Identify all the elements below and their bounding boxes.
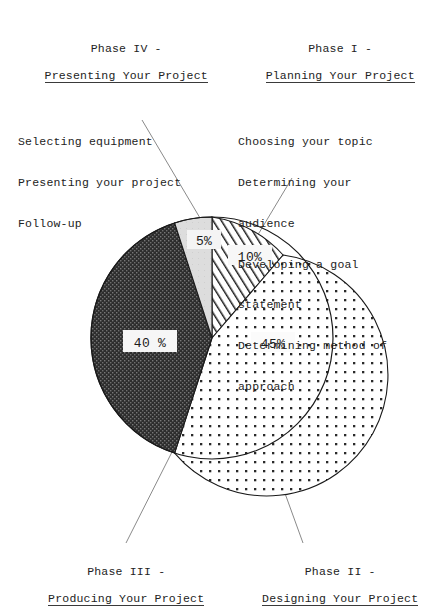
leader-line-phase3 (126, 452, 172, 543)
phase1-title: Phase I - Planning Your Project (228, 28, 424, 97)
phase-block-phase2: Phase II - Designing Your Project Develo… (228, 551, 424, 607)
phase2-title-line1: Phase II - (305, 565, 376, 578)
phase4-title-line2: Presenting Your Project (45, 69, 208, 84)
phase1-title-line1: Phase I - (308, 42, 372, 55)
phase-block-phase4: Phase IV - Presenting Your Project Selec… (14, 28, 210, 258)
phase-block-phase3: Phase III - Producing Your Project Story… (14, 551, 210, 607)
phase2-title-line2: Designing Your Project (262, 592, 418, 607)
phase1-item: approach (238, 380, 424, 394)
phase4-title: Phase IV - Presenting Your Project (14, 28, 210, 97)
phase3-title-line1: Phase III - (87, 565, 165, 578)
phase4-item: Selecting equipment (18, 135, 210, 149)
phase4-items: Selecting equipment Presenting your proj… (14, 108, 210, 258)
phase1-item: Determining method of (238, 339, 424, 353)
phase1-item: statement (238, 298, 424, 312)
phase1-title-line2: Planning Your Project (266, 69, 415, 84)
phase-block-phase1: Phase I - Planning Your Project Choosing… (228, 28, 424, 421)
phase4-item: Presenting your project (18, 176, 210, 190)
phase1-item: Developing a goal (238, 258, 424, 272)
pie-label-40: 40 % (134, 336, 166, 351)
phase1-item: Determining your (238, 176, 424, 190)
phase2-title: Phase II - Designing Your Project (228, 551, 424, 607)
phase1-item: audience (238, 217, 424, 231)
phase3-title: Phase III - Producing Your Project (14, 551, 210, 607)
phase3-title-line2: Producing Your Project (48, 592, 204, 607)
phase4-item: Follow-up (18, 217, 210, 231)
phase1-item: Choosing your topic (238, 135, 424, 149)
phase1-items: Choosing your topic Determining your aud… (228, 108, 424, 421)
phase4-title-line1: Phase IV - (91, 42, 162, 55)
